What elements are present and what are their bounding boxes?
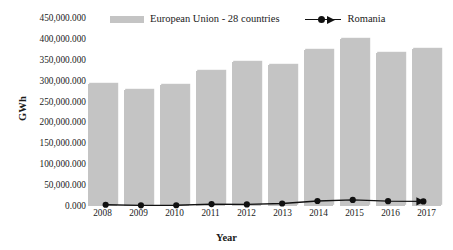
x-axis-tick-label: 2015 [340, 208, 369, 218]
chart-container: European Union - 28 countries Romania GW… [0, 0, 453, 250]
line-marker [103, 202, 109, 208]
x-axis-tick-label: 2013 [268, 208, 297, 218]
y-axis-tick-label: 350,000.000 [40, 55, 86, 65]
y-axis-tick-labels: 450,000.000400,000.000350,000.000300,000… [22, 0, 86, 250]
x-axis-title: Year [0, 232, 453, 243]
line-marker [208, 201, 214, 207]
line-path [106, 200, 424, 205]
x-axis-tick-label: 2016 [376, 208, 405, 218]
x-axis-tick-label: 2012 [232, 208, 261, 218]
y-axis-tick-label: 0.000 [65, 201, 86, 211]
y-axis-tick-label: 400,000.000 [40, 34, 86, 44]
line-marker [385, 198, 391, 204]
x-axis-tick-label: 2008 [88, 208, 117, 218]
y-axis-tick-label: 50,000.000 [44, 180, 86, 190]
line-marker [314, 198, 320, 204]
x-axis-tick-label: 2009 [124, 208, 153, 218]
x-axis-tick-label: 2011 [196, 208, 225, 218]
x-axis-tick-labels: 2008200920102011201220132014201520162017 [88, 208, 441, 218]
line-series-romania [88, 18, 441, 206]
y-axis-tick-label: 250,000.000 [40, 97, 86, 107]
plot-area [88, 18, 441, 206]
y-axis-tick-label: 100,000.000 [40, 159, 86, 169]
y-axis-tick-label: 150,000.000 [40, 138, 86, 148]
y-axis-tick-label: 200,000.000 [40, 117, 86, 127]
line-marker [244, 201, 250, 207]
x-axis-tick-label: 2014 [304, 208, 333, 218]
line-marker [279, 200, 285, 206]
x-axis-tick-label: 2010 [160, 208, 189, 218]
y-axis-tick-label: 300,000.000 [40, 76, 86, 86]
line-marker [350, 197, 356, 203]
y-axis-tick-label: 450,000.000 [40, 13, 86, 23]
x-axis-tick-label: 2017 [412, 208, 441, 218]
